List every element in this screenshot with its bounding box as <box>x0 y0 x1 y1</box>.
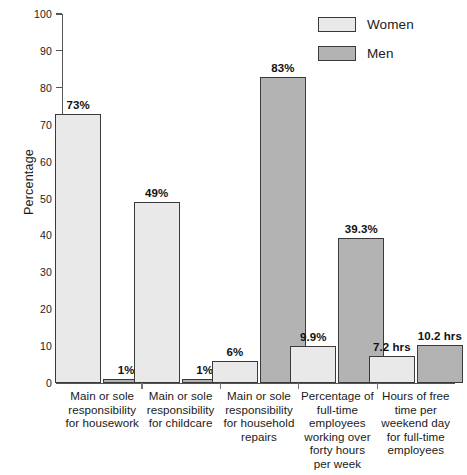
category-label-line: per week <box>314 457 361 470</box>
category-label: Main or soleresponsibilityfor childcare <box>141 389 219 430</box>
category-label-line: time per <box>395 403 437 416</box>
category-label-line: Main or sole <box>227 389 291 402</box>
y-tick-90 <box>56 50 62 51</box>
x-axis-line <box>62 383 455 384</box>
y-tick-label-50: 50 <box>20 193 52 205</box>
category-label-line: for housework <box>65 416 138 429</box>
y-axis-title: Percentage <box>22 127 36 237</box>
bar-group: 49%1% <box>141 14 219 383</box>
category-label: Percentage offull-timeemployeesworking o… <box>298 389 376 471</box>
plot-area: 73%1%49%1%6%83%9.9%39.3%7.2 hrs10.2 hrs <box>63 14 455 383</box>
bar-women-2[interactable] <box>134 202 180 383</box>
category-label: Hours of freetime perweekend dayfor full… <box>377 389 455 457</box>
bar-group: 7.2 hrs10.2 hrs <box>377 14 455 383</box>
y-tick-label-20: 20 <box>20 303 52 315</box>
y-tick-label-40: 40 <box>20 229 52 241</box>
y-tick-label-10: 10 <box>20 340 52 352</box>
y-tick-label-90: 90 <box>20 45 52 57</box>
category-label-line: for childcare <box>149 416 213 429</box>
bar-women-3[interactable] <box>212 361 258 383</box>
y-tick-label-100: 100 <box>20 8 52 20</box>
y-tick-label-0: 0 <box>20 377 52 389</box>
bar-women-1[interactable] <box>55 114 101 383</box>
bar-value-label: 6% <box>203 346 267 358</box>
y-tick-100 <box>56 13 62 14</box>
category-label-line: for household <box>224 416 295 429</box>
bar-women-5[interactable] <box>369 356 415 383</box>
y-tick-80 <box>56 87 62 88</box>
category-label-line: working over <box>304 430 370 443</box>
bar-value-label: 7.2 hrs <box>360 341 424 353</box>
category-label-line: Main or sole <box>149 389 213 402</box>
category-label: Main or soleresponsibilityfor housework <box>63 389 141 430</box>
y-tick-label-60: 60 <box>20 156 52 168</box>
bar-group: 6%83% <box>220 14 298 383</box>
category-label-line: for full-time <box>387 430 445 443</box>
bar-value-label: 73% <box>46 99 110 111</box>
y-tick-label-30: 30 <box>20 266 52 278</box>
bar-men-5[interactable] <box>417 345 463 383</box>
category-label-line: employees <box>309 416 366 429</box>
category-label-line: Hours of free <box>382 389 450 402</box>
category-label-line: weekend day <box>381 416 450 429</box>
category-label-line: forty hours <box>310 443 365 456</box>
x-axis-category-labels: Main or soleresponsibilityfor houseworkM… <box>63 389 455 475</box>
category-label-line: full-time <box>317 403 358 416</box>
bar-value-label: 9.9% <box>281 331 345 343</box>
bar-value-label: 49% <box>125 187 189 199</box>
bar-value-label: 10.2 hrs <box>408 330 467 342</box>
category-label-line: Percentage of <box>301 389 374 402</box>
category-label-line: repairs <box>241 430 277 443</box>
category-label-line: responsibility <box>225 403 293 416</box>
category-label-line: Main or sole <box>70 389 134 402</box>
bar-group: 9.9%39.3% <box>298 14 376 383</box>
bar-women-4[interactable] <box>290 346 336 383</box>
category-label-line: responsibility <box>68 403 136 416</box>
category-label-line: employees <box>388 443 445 456</box>
category-label: Main or soleresponsibilityfor householdr… <box>220 389 298 443</box>
category-label-line: responsibility <box>147 403 215 416</box>
y-tick-label-70: 70 <box>20 119 52 131</box>
y-tick-label-80: 80 <box>20 82 52 94</box>
